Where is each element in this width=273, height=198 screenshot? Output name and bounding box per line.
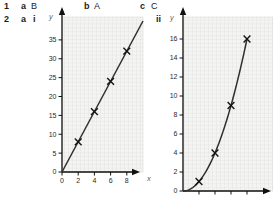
y-axis-arrow-icon	[59, 7, 65, 15]
svg-text:10: 10	[49, 131, 57, 138]
svg-text:12: 12	[170, 73, 178, 80]
svg-text:25: 25	[49, 74, 57, 81]
answer-sheet: 1 a B b A c C 2 a i ii 05101520253035024…	[0, 0, 273, 198]
svg-text:4: 4	[174, 149, 178, 156]
tick-labels: 0246810121416	[170, 35, 178, 194]
svg-text:20: 20	[49, 93, 57, 100]
svg-text:8: 8	[125, 177, 129, 184]
svg-text:10: 10	[170, 92, 178, 99]
axis-letters: y	[169, 13, 175, 22]
svg-text:6: 6	[109, 177, 113, 184]
y-axis-arrow-icon	[180, 7, 186, 15]
grid	[183, 17, 273, 191]
svg-text:2: 2	[174, 168, 178, 175]
svg-text:0: 0	[60, 177, 64, 184]
svg-text:8: 8	[174, 111, 178, 118]
svg-text:4: 4	[92, 177, 96, 184]
graph-i: 0510152025303502468yx	[48, 7, 151, 184]
svg-text:14: 14	[170, 54, 178, 61]
svg-text:30: 30	[49, 55, 57, 62]
svg-text:6: 6	[174, 130, 178, 137]
svg-text:16: 16	[170, 35, 178, 42]
svg-text:15: 15	[49, 112, 57, 119]
svg-text:35: 35	[49, 36, 57, 43]
svg-text:x: x	[146, 174, 151, 183]
svg-text:0: 0	[53, 168, 57, 175]
svg-text:y: y	[48, 12, 54, 21]
svg-text:2: 2	[76, 177, 80, 184]
graphs-canvas: 0510152025303502468yx0246810121416y	[0, 0, 273, 198]
graph-ii: 0246810121416y	[169, 7, 273, 195]
svg-text:5: 5	[53, 150, 57, 157]
svg-text:0: 0	[174, 187, 178, 194]
svg-text:y: y	[169, 13, 175, 22]
